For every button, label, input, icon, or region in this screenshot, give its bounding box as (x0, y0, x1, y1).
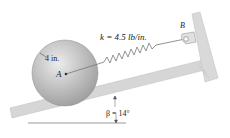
center-label-a: A (56, 70, 62, 79)
angle-label: β = 14° (106, 110, 130, 118)
anchor-bracket-b (182, 32, 197, 44)
disk (32, 40, 98, 106)
spring-constant-label: k = 4.5 lb/in. (100, 33, 147, 42)
anchor-label-b: B (180, 22, 185, 30)
radius-label: 4 in. (45, 55, 59, 63)
